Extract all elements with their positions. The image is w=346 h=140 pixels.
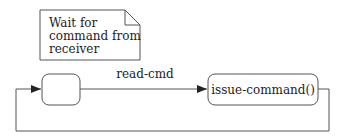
transition-read-cmd-label: read-cmd — [116, 67, 174, 81]
state-diagram: Wait for command from receiver issue-com… — [0, 0, 346, 140]
state-initial — [42, 74, 80, 105]
note-line-3: receiver — [49, 42, 99, 56]
note: Wait for command from receiver — [40, 10, 141, 60]
state-issue-command: issue-command() — [208, 74, 318, 105]
note-line-2: command from — [49, 29, 141, 43]
transition-read-cmd: read-cmd — [80, 67, 207, 89]
state-issue-command-label: issue-command() — [211, 83, 315, 97]
note-line-1: Wait for — [49, 16, 98, 30]
